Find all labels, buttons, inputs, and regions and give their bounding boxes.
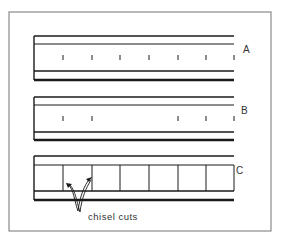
chisel-cut-arrows	[66, 177, 92, 212]
board-c	[34, 156, 234, 200]
chisel-cuts-caption: chisel cuts	[88, 211, 138, 222]
chisel-cuts-diagram: A B C chisel cuts	[0, 0, 288, 238]
arrow-left-icon	[68, 184, 78, 211]
board-b	[34, 97, 234, 140]
board-c-label: C	[236, 165, 243, 176]
board-a	[34, 36, 234, 80]
figure-frame	[9, 12, 271, 231]
board-a-label: A	[243, 44, 250, 55]
board-b-label: B	[241, 105, 248, 116]
